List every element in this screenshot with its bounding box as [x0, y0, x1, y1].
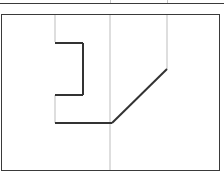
strip-divider-0 — [110, 0, 111, 3]
drawing-panel[interactable] — [1, 14, 220, 171]
previous-row-strip — [0, 0, 224, 4]
screenshot-root — [0, 0, 224, 173]
strip-divider-1 — [167, 0, 168, 3]
